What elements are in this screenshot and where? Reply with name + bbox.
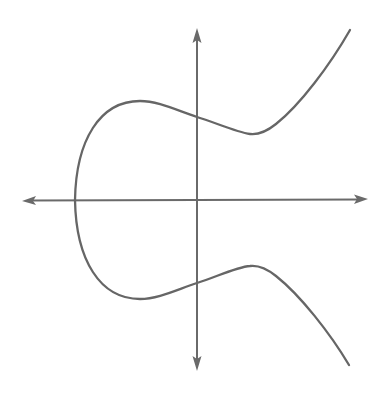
elliptic-curve <box>75 30 350 365</box>
elliptic-curve-diagram: Elliptic curve y^2 = x^3 + ax + b plotte… <box>0 0 388 393</box>
